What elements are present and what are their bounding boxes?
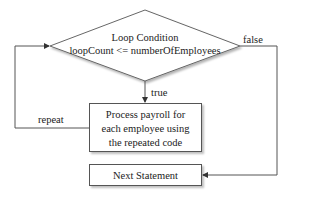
next-statement-box: Next Statement <box>89 164 202 186</box>
condition-expression: loopCount <= numberOfEmployees <box>65 44 225 57</box>
process-line-3: the repeated code <box>90 136 201 149</box>
repeat-label: repeat <box>38 114 64 126</box>
next-statement-label: Next Statement <box>90 169 201 182</box>
process-box: Process payroll for each employee using … <box>89 103 202 152</box>
process-line-2: each employee using <box>90 122 201 135</box>
false-edge <box>203 46 277 175</box>
true-label: true <box>151 87 167 99</box>
condition-title: Loop Condition <box>95 31 195 44</box>
false-label: false <box>243 34 263 46</box>
process-line-1: Process payroll for <box>90 108 201 121</box>
